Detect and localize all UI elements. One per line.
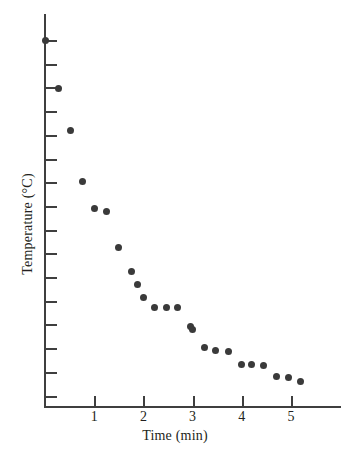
data-point [189, 326, 196, 333]
data-point [273, 373, 280, 380]
x-axis-tick-label: 2 [133, 409, 153, 425]
x-axis-tick [291, 396, 293, 407]
data-point [248, 361, 255, 368]
data-point [128, 268, 135, 275]
y-axis-tick [46, 253, 57, 255]
data-point [297, 378, 304, 385]
y-axis-title: Temperature (°C) [20, 134, 36, 314]
x-axis-tick-label: 4 [232, 409, 252, 425]
data-point [260, 362, 267, 369]
scatter-plot-figure: 12345 Time (min) Temperature (°C) [0, 0, 350, 456]
data-point [67, 127, 74, 134]
data-point [225, 348, 232, 355]
data-point [140, 294, 147, 301]
y-axis-tick [46, 372, 57, 374]
data-point [79, 178, 86, 185]
x-axis-tick [94, 396, 96, 407]
y-axis-tick [46, 64, 57, 66]
data-point [42, 37, 49, 44]
data-point [134, 281, 141, 288]
data-point [174, 304, 181, 311]
y-axis-tick [46, 348, 57, 350]
y-axis-tick [46, 111, 57, 113]
data-point [212, 347, 219, 354]
x-axis-tick [242, 396, 244, 407]
y-axis-tick [46, 277, 57, 279]
x-axis-tick [143, 396, 145, 407]
x-axis-tick [193, 396, 195, 407]
data-point [163, 304, 170, 311]
y-axis-tick [46, 206, 57, 208]
y-axis-tick [46, 301, 57, 303]
x-axis-tick-label: 3 [183, 409, 203, 425]
data-point [103, 208, 110, 215]
y-axis-tick [46, 324, 57, 326]
data-point [91, 205, 98, 212]
data-point [151, 304, 158, 311]
x-axis-title: Time (min) [0, 428, 350, 444]
y-axis-tick [46, 159, 57, 161]
data-point [55, 85, 62, 92]
data-point [285, 374, 292, 381]
data-point [238, 361, 245, 368]
x-axis-tick-label: 5 [281, 409, 301, 425]
y-axis-tick [46, 135, 57, 137]
y-axis-tick [46, 182, 57, 184]
y-axis-tick [46, 230, 57, 232]
x-axis-tick-label: 1 [84, 409, 104, 425]
data-point [115, 244, 122, 251]
y-axis-tick [46, 396, 57, 398]
data-point [201, 344, 208, 351]
